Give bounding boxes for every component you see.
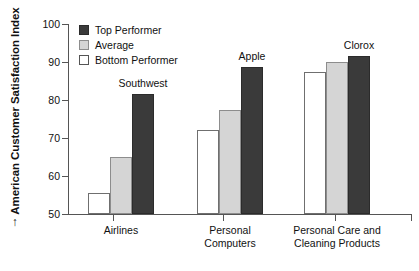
bar-annotation: Southwest bbox=[118, 77, 167, 89]
x-axis-category-label-line: Personal Care and bbox=[293, 224, 381, 237]
y-axis-tick-label: 70 bbox=[30, 132, 60, 144]
y-axis-tick-mark bbox=[62, 24, 68, 25]
x-axis-category-label-line: Cleaning Products bbox=[293, 237, 381, 250]
bar-top-performer bbox=[348, 56, 370, 214]
legend-swatch-top-performer bbox=[79, 25, 89, 35]
x-axis-line bbox=[68, 214, 412, 215]
bar-bottom-performer bbox=[304, 72, 326, 215]
x-axis-category-label-line: Personal bbox=[204, 224, 255, 237]
x-axis-separator-tick bbox=[411, 215, 412, 221]
y-axis-tick-labels: 1009080706050 bbox=[26, 0, 60, 271]
x-axis-category-label: Personal Care andCleaning Products bbox=[293, 224, 381, 249]
bar-top-performer bbox=[132, 94, 154, 214]
bar-bottom-performer bbox=[88, 193, 110, 214]
x-axis-category-label: PersonalComputers bbox=[204, 224, 255, 249]
y-axis-tick-mark bbox=[62, 138, 68, 139]
bar-average bbox=[326, 62, 348, 214]
y-axis-tick-label: 100 bbox=[30, 18, 60, 30]
x-axis-separator-tick bbox=[223, 215, 224, 221]
y-axis-tick-label: 60 bbox=[30, 170, 60, 182]
legend-item-label: Top Performer bbox=[95, 24, 162, 36]
bar-annotation: Apple bbox=[239, 50, 266, 62]
y-axis-tick-label: 50 bbox=[30, 208, 60, 220]
bar-top-performer bbox=[241, 67, 263, 214]
legend-item: Bottom Performer bbox=[79, 53, 178, 67]
chart-legend: Top PerformerAverageBottom Performer bbox=[79, 23, 178, 68]
x-axis-category-label: Airlines bbox=[104, 224, 138, 237]
legend-swatch-bottom-performer bbox=[79, 55, 89, 65]
y-axis-title: ↑ American Customer Satisfaction Index bbox=[9, 7, 21, 224]
bar-bottom-performer bbox=[197, 130, 219, 214]
bar-chart: ↑ American Customer Satisfaction Index 1… bbox=[0, 0, 419, 271]
y-axis-tick-mark bbox=[62, 176, 68, 177]
legend-swatch-average bbox=[79, 40, 89, 50]
y-axis-tick-mark bbox=[62, 62, 68, 63]
bar-annotation: Clorox bbox=[344, 39, 374, 51]
x-axis-separator-tick bbox=[113, 215, 114, 221]
y-axis-tick-label: 80 bbox=[30, 94, 60, 106]
legend-item-label: Average bbox=[95, 39, 134, 51]
x-axis-category-label-line: Computers bbox=[204, 237, 255, 250]
y-axis-tick-label: 90 bbox=[30, 56, 60, 68]
y-axis-title-text: American Customer Satisfaction Index bbox=[9, 7, 21, 214]
legend-item: Top Performer bbox=[79, 23, 178, 37]
axis-arrow-up-icon: ↑ bbox=[12, 216, 18, 228]
y-axis-tick-mark bbox=[62, 214, 68, 215]
y-axis-tick-mark bbox=[62, 100, 68, 101]
x-axis-category-label-line: Airlines bbox=[104, 224, 138, 237]
legend-item: Average bbox=[79, 38, 178, 52]
legend-item-label: Bottom Performer bbox=[95, 54, 178, 66]
bar-average bbox=[219, 110, 241, 215]
x-axis-separator-tick bbox=[335, 215, 336, 221]
bar-average bbox=[110, 157, 132, 214]
